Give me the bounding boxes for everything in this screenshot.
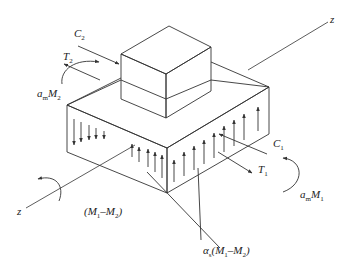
- label-t2: T2: [63, 51, 73, 65]
- diagram-canvas: C2 T2 amM2 C1 T1 amM1 z z (M1–M2) αs(M1–…: [0, 0, 345, 266]
- shear-arrows-down: [74, 119, 104, 145]
- diagram-svg: [0, 0, 345, 266]
- z-axis-right: [248, 22, 328, 70]
- leader-lines: [147, 168, 220, 248]
- moment-m1-arrow: [283, 158, 299, 192]
- label-c1: C1: [273, 138, 284, 152]
- z-axis-left: [26, 145, 135, 208]
- label-am-m2: amM2: [37, 88, 61, 102]
- label-am-m1: amM1: [300, 189, 324, 203]
- label-as-m1-minus-m2: αs(M1–M2): [203, 245, 250, 259]
- label-z-right: z: [330, 14, 334, 25]
- force-t2-arrow: [64, 64, 100, 80]
- upper-box: [121, 26, 211, 118]
- label-t1: T1: [258, 164, 268, 178]
- label-z-left: z: [17, 206, 21, 217]
- force-t1-arrow: [218, 152, 252, 173]
- shear-arrows-up-left-face: [132, 144, 162, 178]
- force-c1-arrow: [219, 134, 267, 154]
- label-m1-minus-m2: (M1–M2): [84, 206, 122, 220]
- lower-slab: [67, 80, 269, 193]
- label-c2: C2: [74, 28, 85, 42]
